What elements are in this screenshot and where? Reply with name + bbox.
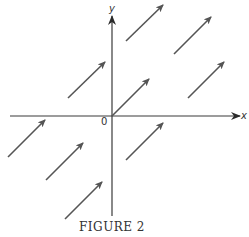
vector-field-diagram: x y 0 [0,0,249,237]
vector-arrow-icon [126,5,163,41]
y-axis-label: y [108,3,116,14]
vector-arrows [8,5,224,219]
figure-caption: FIGURE 2 [0,220,224,234]
vector-arrow-icon [65,182,102,219]
x-axis-label: x [240,110,247,121]
vector-arrow-icon [188,62,224,98]
vector-arrow-icon [174,17,211,54]
vector-arrow-icon [8,120,45,157]
vector-arrow-icon [126,123,163,160]
vector-arrow-icon [46,143,83,180]
vector-arrow-icon [112,79,149,116]
origin-label: 0 [101,116,107,127]
axes: x y 0 [10,3,247,216]
vector-arrow-icon [68,62,105,98]
